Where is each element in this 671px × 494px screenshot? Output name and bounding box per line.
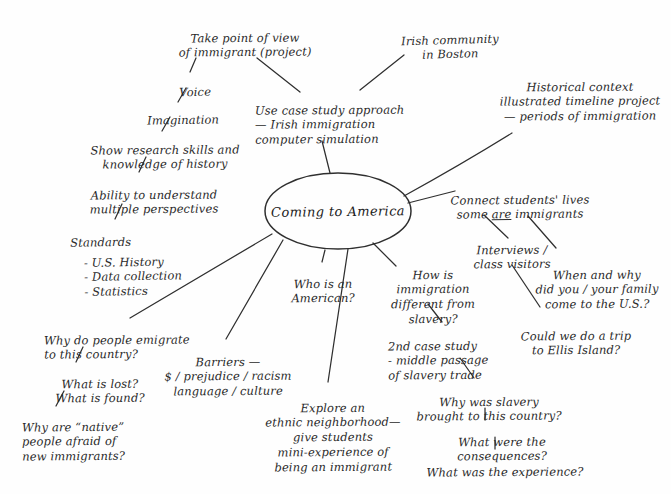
link-center-whoam <box>322 250 325 262</box>
node-take-point-of-view[interactable]: Take point of view of immigrant (project… <box>160 15 330 60</box>
node-when-and-why[interactable]: When and why did you / your family come … <box>528 253 666 313</box>
node-label: Show research skills and knowledge of hi… <box>90 142 239 172</box>
node-standards-items[interactable]: - U.S. History - Data collection - Stati… <box>84 239 203 300</box>
node-label: What was the experience? <box>427 464 584 479</box>
node-what-was-experience[interactable]: What was the experience? <box>420 449 590 480</box>
node-label: Could we do a trip to Ellis Island? <box>521 328 632 357</box>
mindmap-canvas: Coming to America Take point of view of … <box>0 0 671 494</box>
node-label-post: immigrants <box>511 207 583 222</box>
node-how-is-immigration-different[interactable]: How is immigration different from slaver… <box>383 253 484 327</box>
node-why-native-people-afraid[interactable]: Why are “native” people afraid of new im… <box>22 405 162 465</box>
center-node[interactable]: Coming to America <box>265 192 411 230</box>
node-connect-students-lives[interactable]: Connect students' lives some are immigra… <box>438 177 602 222</box>
node-irish-community-boston[interactable]: Irish community in Boston <box>389 16 510 63</box>
node-show-research-skills[interactable]: Show research skills and knowledge of hi… <box>82 127 248 172</box>
node-label: What is lost? What is found? <box>55 376 144 405</box>
link-casestudy-takepov <box>257 58 300 92</box>
node-why-do-people-emigrate[interactable]: Why do people emigrate to this country? <box>44 317 204 362</box>
node-label: Imagination <box>147 112 219 127</box>
node-label: Ability to understand multiple perspecti… <box>90 187 219 217</box>
node-imagination[interactable]: Imagination <box>140 97 226 128</box>
node-who-is-an-american[interactable]: Who is an American? <box>275 262 371 307</box>
node-use-case-study-approach[interactable]: Use case study approach — Irish immigrat… <box>255 87 445 147</box>
node-second-case-study[interactable]: 2nd case study - middle passage of slave… <box>388 324 516 384</box>
center-node-label: Coming to America <box>271 203 405 220</box>
node-label: - U.S. History - Data collection - Stati… <box>84 254 182 299</box>
node-label: Irish community in Boston <box>401 31 499 62</box>
node-label: Take point of view of immigrant (project… <box>179 30 312 60</box>
node-label-underlined: are <box>492 207 512 221</box>
node-ellis-island-trip[interactable]: Could we do a trip to Ellis Island? <box>508 314 644 359</box>
node-label: How is immigration different from slaver… <box>391 268 475 326</box>
node-label: 2nd case study - middle passage of slave… <box>388 339 489 383</box>
node-label: When and why did you / your family come … <box>535 267 658 311</box>
node-label: Explore an ethnic neighborhood— give stu… <box>265 400 401 474</box>
node-historical-context[interactable]: Historical context illustrated timeline … <box>495 64 665 124</box>
node-label: Why are “native” people afraid of new im… <box>22 419 125 463</box>
node-voice[interactable]: Voice <box>165 70 225 100</box>
node-label: Who is an American? <box>291 277 355 306</box>
node-label: Use case study approach — Irish immigrat… <box>255 102 404 146</box>
node-why-was-slavery-brought[interactable]: Why was slavery brought to this country? <box>410 379 568 424</box>
node-ability-to-understand[interactable]: Ability to understand multiple perspecti… <box>78 172 230 217</box>
node-what-lost-found[interactable]: What is lost? What is found? <box>40 362 160 407</box>
node-label: Why do people emigrate to this country? <box>44 332 190 362</box>
node-label: Historical context illustrated timeline … <box>500 79 661 123</box>
node-explore-ethnic-neighborhood[interactable]: Explore an ethnic neighborhood— give stu… <box>258 385 409 474</box>
